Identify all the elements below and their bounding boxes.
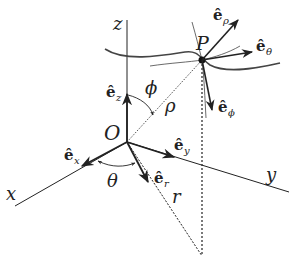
r-label: r	[172, 186, 182, 207]
svg-text:ê: ê	[256, 37, 266, 55]
svg-text:ê: ê	[218, 98, 228, 116]
svg-text:y: y	[183, 145, 190, 156]
svg-text:ρ: ρ	[222, 15, 229, 26]
svg-text:r: r	[164, 178, 170, 189]
e-theta-label: ê θ	[256, 37, 272, 57]
theta-arc	[98, 161, 135, 166]
phi-arc	[128, 95, 153, 115]
x-axis-label: x	[6, 183, 16, 204]
rho-label: ρ	[164, 95, 176, 116]
e-z-label: ê z	[106, 83, 122, 103]
svg-text:ê: ê	[106, 83, 116, 101]
svg-text:ϕ: ϕ	[228, 107, 235, 118]
svg-text:x: x	[74, 155, 80, 166]
e-r-label: ê r	[154, 169, 170, 189]
phi-label: ϕ	[145, 77, 157, 98]
e-theta-vector	[202, 52, 252, 60]
z-axis-label: z	[112, 13, 123, 34]
svg-text:ê: ê	[64, 146, 74, 164]
diagram: z x y O P ϕ θ ρ r ê z ê x ê y ê r ê ρ ê …	[0, 0, 291, 265]
svg-text:ê: ê	[213, 6, 223, 24]
r-line	[127, 142, 202, 256]
svg-text:ê: ê	[154, 169, 164, 187]
svg-text:θ: θ	[266, 46, 272, 57]
e-x-vector	[82, 142, 127, 166]
theta-label: θ	[107, 170, 118, 191]
e-x-label: ê x	[64, 146, 80, 166]
svg-text:ê: ê	[174, 136, 184, 154]
e-y-label: ê y	[174, 136, 190, 156]
spherical-coordinates-figure: z x y O P ϕ θ ρ r ê z ê x ê y ê r ê ρ ê …	[0, 0, 291, 265]
e-phi-vector	[202, 60, 212, 110]
origin-label: O	[104, 121, 120, 145]
svg-text:z: z	[115, 92, 122, 103]
point-p-label: P	[195, 32, 210, 54]
y-axis-label: y	[265, 164, 277, 185]
e-phi-label: ê ϕ	[218, 98, 235, 118]
e-rho-label: ê ρ	[213, 6, 229, 26]
coordinate-curve-1	[105, 49, 280, 70]
